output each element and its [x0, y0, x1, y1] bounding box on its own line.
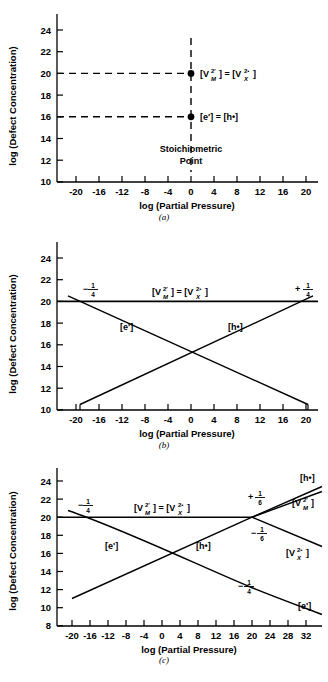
svg-text:−: −	[251, 528, 256, 538]
x-axis-title: log (Partial Pressure)	[139, 428, 235, 439]
svg-text:M: M	[211, 76, 217, 82]
svg-text:X: X	[195, 294, 201, 300]
x-tick-label: -8	[122, 630, 130, 641]
y-tick-label: 24	[40, 253, 51, 264]
x-tick-label: 16	[229, 630, 240, 641]
svg-text:]: ]	[306, 548, 309, 558]
x-tick-label: 24	[265, 630, 276, 641]
panel-c-plot: 24 22 20 18 16 14 12 10 8	[0, 456, 328, 669]
data-point-vacancy	[188, 70, 195, 77]
y-tick-label: 18	[40, 90, 51, 101]
label-vacancy-metal-right-c: [V 2′ M ]	[292, 497, 314, 511]
line-electron-c	[68, 511, 322, 615]
x-tick-label: -20	[65, 630, 79, 641]
slope-label-right-b: + 1 4	[295, 282, 313, 298]
y-ticks-a	[57, 30, 63, 182]
y-ticks-c	[57, 481, 63, 626]
svg-text:1: 1	[247, 579, 251, 586]
svg-text:2•: 2•	[196, 286, 201, 292]
label-carrier-equality: [e′] = [h•]	[200, 112, 238, 122]
svg-text:6: 6	[258, 499, 262, 506]
panel-a-plot: 24 22 20 18 16 14 12 10 -20	[0, 0, 328, 215]
label-electron-left-c: [e']	[105, 541, 118, 551]
y-tick-label: 22	[40, 494, 51, 505]
svg-text:1: 1	[306, 282, 310, 289]
svg-text:] = [V: ] = [V	[153, 503, 175, 513]
y-axis-title: log (Defect Concentration)	[7, 491, 18, 610]
svg-text:] = [V: ] = [V	[171, 287, 193, 297]
svg-text:2′: 2′	[303, 497, 308, 503]
y-tick-label: 10	[40, 602, 51, 613]
panel-c: 24 22 20 18 16 14 12 10 8	[0, 456, 328, 682]
svg-text:1: 1	[260, 526, 264, 533]
panel-b-caption: (b)	[0, 440, 328, 450]
x-tick-label: 12	[255, 414, 266, 425]
y-tick-label: 16	[40, 339, 51, 350]
svg-text:X: X	[177, 510, 183, 516]
x-tick-label: 32	[301, 630, 312, 641]
slope-label-left-c: − 1 4	[78, 498, 93, 514]
svg-text:]: ]	[311, 498, 314, 508]
x-tick-label: 8	[195, 630, 200, 641]
y-tick-label: 18	[40, 530, 51, 541]
x-tick-label: -12	[115, 414, 129, 425]
svg-text:[V: [V	[286, 548, 295, 558]
svg-text:2•: 2•	[297, 547, 302, 553]
x-tick-label: 0	[159, 630, 164, 641]
x-tick-label: -20	[69, 414, 83, 425]
x-ticks-b	[76, 404, 306, 410]
svg-text:1: 1	[86, 498, 90, 505]
y-tick-label: 16	[40, 111, 51, 122]
label-vacancy-equality-b: [V 2′ M ] = [V 2• X ]	[152, 286, 208, 300]
y-tick-label: 12	[40, 383, 51, 394]
svg-text:[V: [V	[134, 503, 143, 513]
x-tick-label: -4	[164, 186, 173, 197]
x-tick-label: 20	[247, 630, 258, 641]
x-tick-label: 16	[278, 414, 289, 425]
y-tick-label: 22	[40, 46, 51, 57]
label-electron-right-c: [e']	[298, 601, 311, 611]
x-tick-label: -20	[69, 186, 83, 197]
x-tick-label: 0	[188, 186, 193, 197]
y-tick-label: 24	[40, 476, 51, 487]
svg-text:M: M	[303, 505, 309, 511]
svg-text:−: −	[238, 581, 243, 591]
y-tick-label: 20	[40, 68, 51, 79]
x-ticks-c	[72, 620, 306, 626]
x-tick-label: 16	[278, 186, 289, 197]
slope-label-upper-right-c: + 1 6	[248, 490, 265, 506]
svg-text:X: X	[243, 76, 249, 82]
x-tick-label: 28	[283, 630, 294, 641]
y-tick-label: 10	[40, 176, 51, 187]
svg-text:X: X	[296, 555, 302, 561]
label-vacancy-anion-right-c: [V 2• X ]	[286, 547, 309, 561]
y-tick-label: 20	[40, 512, 51, 523]
svg-text:−: −	[83, 284, 88, 294]
label-vacancy-equality-c: [V 2′ M ] = [V 2• X ]	[134, 502, 190, 516]
slope-label-left-b: − 1 4	[83, 282, 98, 298]
y-ticks-b	[57, 258, 63, 410]
svg-text:] = [V: ] = [V	[219, 69, 241, 79]
svg-text:1: 1	[258, 490, 262, 497]
x-tick-label: 4	[177, 630, 183, 641]
svg-text:2′: 2′	[163, 286, 168, 292]
line-electron	[68, 296, 308, 405]
label-hole-b: [h•]	[228, 322, 243, 332]
svg-text:[V: [V	[200, 69, 209, 79]
panel-b: 24 22 20 18 16 14 12 10 -20 -16	[0, 228, 328, 456]
svg-text:2′: 2′	[145, 502, 150, 508]
svg-text:[V: [V	[152, 287, 161, 297]
y-tick-label: 16	[40, 548, 51, 559]
svg-text:4: 4	[247, 588, 251, 595]
x-tick-label: 8	[234, 186, 239, 197]
svg-text:[V: [V	[292, 498, 301, 508]
svg-text:M: M	[163, 294, 169, 300]
slope-label-mid-right-c: − 1 6	[251, 526, 267, 542]
y-tick-label: 10	[40, 404, 51, 415]
svg-text:1: 1	[91, 282, 95, 289]
y-tick-label: 24	[40, 25, 51, 36]
y-tick-label: 18	[40, 318, 51, 329]
y-tick-label: 14	[40, 566, 51, 577]
x-tick-label: 4	[211, 414, 217, 425]
panel-a-caption: (a)	[0, 212, 328, 222]
